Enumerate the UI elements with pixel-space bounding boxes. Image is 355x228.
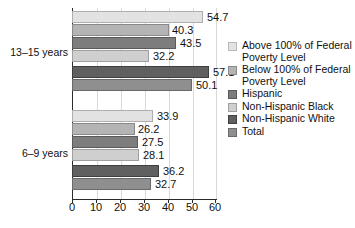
group-label-13-15: 13–15 years	[0, 46, 68, 58]
legend-label-non-hispanic-black: Non-Hispanic Black	[242, 101, 334, 113]
legend-item-total: Total	[228, 126, 355, 138]
legend-item-below-poverty: Below 100% of Federal Poverty Level	[228, 64, 355, 87]
bar-13-15-non-hispanic-white	[72, 66, 209, 78]
legend-swatch-hispanic	[228, 90, 237, 99]
xtick-label-20: 20	[114, 201, 126, 213]
legend-item-non-hispanic-white: Non-Hispanic White	[228, 113, 355, 125]
bar-13-15-non-hispanic-black	[72, 50, 149, 62]
legend-item-above-poverty: Above 100% of Federal Poverty Level	[228, 40, 355, 63]
xtick-label-40: 40	[162, 201, 174, 213]
bar-value-33-9: 33.9	[157, 110, 178, 122]
bar-13-15-total	[72, 79, 192, 91]
bar-value-26-2: 26.2	[138, 123, 159, 135]
xtick-label-10: 10	[90, 201, 102, 213]
xtick-label-50: 50	[186, 201, 198, 213]
bar-6-9-total	[72, 178, 151, 190]
bar-13-15-hispanic	[72, 37, 176, 49]
group-label-6-9: 6–9 years	[0, 147, 68, 159]
legend-label-non-hispanic-white: Non-Hispanic White	[242, 113, 335, 125]
bar-value-36-2: 36.2	[163, 165, 184, 177]
bar-value-28-1: 28.1	[143, 149, 164, 161]
bar-6-9-non-hispanic-white	[72, 165, 159, 177]
legend-swatch-above-poverty	[228, 42, 237, 51]
bar-value-43-5: 43.5	[180, 37, 201, 49]
legend-item-non-hispanic-black: Non-Hispanic Black	[228, 101, 355, 113]
bar-value-32-7: 32.7	[155, 178, 176, 190]
legend-label-total: Total	[242, 126, 264, 138]
legend-swatch-non-hispanic-black	[228, 103, 237, 112]
bar-6-9-below-poverty	[72, 123, 135, 135]
bar-13-15-above-poverty	[72, 11, 203, 23]
bar-6-9-above-poverty	[72, 110, 153, 122]
legend-label-above-poverty: Above 100% of Federal Poverty Level	[242, 40, 355, 63]
bar-value-50-1: 50.1	[196, 79, 217, 91]
legend-label-below-poverty: Below 100% of Federal Poverty Level	[242, 64, 355, 87]
bar-chart: 13–15 years 6–9 years 54.7 40.3 43.5 32.…	[0, 0, 355, 228]
bar-value-32-2: 32.2	[153, 50, 174, 62]
legend-label-hispanic: Hispanic	[242, 88, 282, 100]
bar-6-9-hispanic	[72, 136, 138, 148]
bar-value-40-3: 40.3	[172, 24, 193, 36]
bar-6-9-non-hispanic-black	[72, 149, 139, 161]
xtick-label-30: 30	[138, 201, 150, 213]
xtick-label-60: 60	[209, 201, 221, 213]
bar-13-15-below-poverty	[72, 24, 169, 36]
legend-swatch-below-poverty	[228, 66, 237, 75]
gridline-60	[216, 8, 217, 199]
xtick-label-0: 0	[69, 201, 75, 213]
bar-value-54-7: 54.7	[207, 11, 228, 23]
bar-value-27-5: 27.5	[142, 136, 163, 148]
legend-item-hispanic: Hispanic	[228, 88, 355, 100]
legend-swatch-non-hispanic-white	[228, 115, 237, 124]
legend: Above 100% of Federal Poverty Level Belo…	[228, 40, 355, 138]
legend-swatch-total	[228, 128, 237, 137]
